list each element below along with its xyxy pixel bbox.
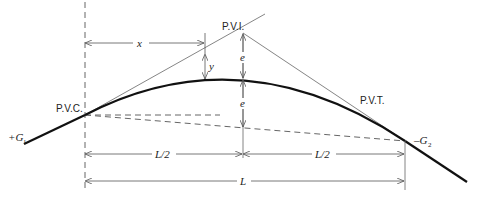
pvt-label: P.V.T. [360,95,384,106]
e-upper-label: e [240,51,245,63]
chord-dashed-line [85,115,405,141]
pvi-label: P.V.I. [222,21,244,32]
x-label: x [136,37,142,49]
svg-text:–G: –G [413,134,428,146]
vertical-curve-diagram: x y e e L/2 L/2 L P.V.C. P.V.I. P.V.T. +… [0,0,478,199]
total-length-label: L [239,175,246,187]
half-length-right-label: L/2 [314,148,330,160]
pvc-label: P.V.C. [56,103,83,114]
y-label: y [208,60,214,72]
e-lower-label: e [240,97,245,109]
grade-g1-line [24,115,85,144]
svg-text:+G: +G [8,131,23,143]
half-length-left-label: L/2 [154,148,170,160]
grade-g2-line [405,141,467,182]
svg-text:1: 1 [23,138,27,146]
g1-grade-label: +G 1 [8,131,27,146]
svg-text:2: 2 [428,141,432,149]
parabolic-curve [85,80,405,141]
g2-grade-label: –G 2 [413,134,432,149]
